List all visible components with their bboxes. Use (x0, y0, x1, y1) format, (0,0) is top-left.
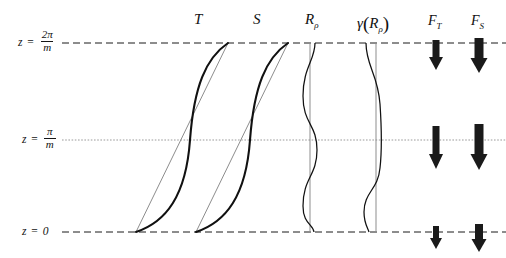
S-reference-line (196, 43, 288, 232)
profile-plot (0, 0, 506, 258)
flux-arrow-FS-bottom (472, 224, 487, 252)
flux-arrow-FT-middle (429, 126, 443, 169)
flux-arrow-FS-middle (471, 124, 488, 170)
flux-arrow-FT-bottom (430, 226, 442, 249)
T-reference-line (136, 43, 228, 232)
gamma-profile-curve (364, 43, 382, 232)
figure-canvas: z = 2π m z = π m z = 0 T S Rρ γ(Rρ) FT F… (0, 0, 506, 258)
flux-arrow-FT-top (429, 40, 443, 70)
